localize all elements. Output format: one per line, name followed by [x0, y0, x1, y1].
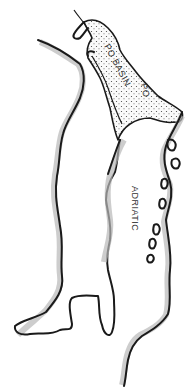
italy-adriatic-coast	[104, 140, 124, 262]
adriatic-map: PO BASIN PO ADRIATIC	[0, 0, 194, 390]
adriatic-east-coast	[122, 112, 182, 386]
adriatic-label: ADRIATIC	[130, 186, 140, 231]
